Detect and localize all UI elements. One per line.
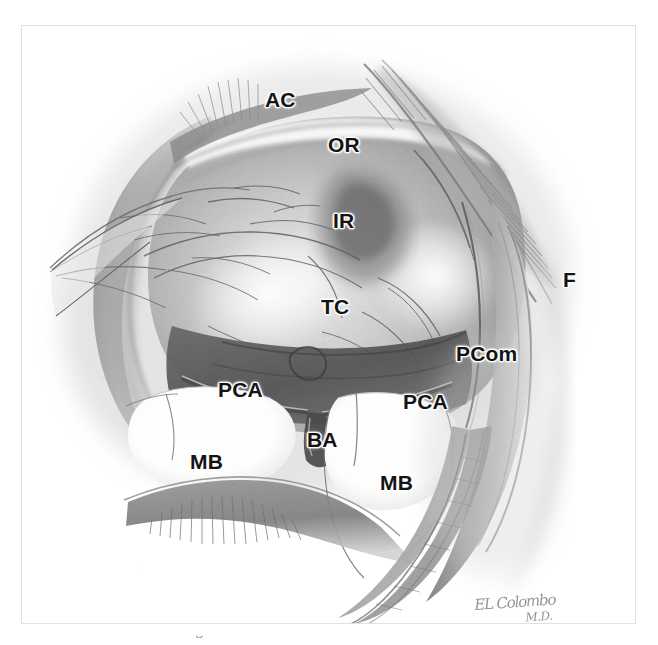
artist-signature: EL Colombo M.D. <box>474 592 557 623</box>
label-f: F <box>563 269 576 290</box>
label-tc: TC <box>321 296 349 317</box>
label-mb-left: MB <box>190 451 223 472</box>
page-canvas: ACORIRFTCPComPCAPCABAMBMB EL Colombo M.D… <box>0 0 658 645</box>
label-pca-right: PCA <box>403 391 448 412</box>
clipped-caption-strip: of the figure of the internal cerebral s… <box>0 636 658 645</box>
drawing-vector <box>22 26 635 623</box>
plate-inner: ACORIRFTCPComPCAPCABAMBMB EL Colombo M.D… <box>22 26 635 623</box>
label-ir: IR <box>333 210 354 231</box>
label-mb-right: MB <box>380 472 413 493</box>
label-or: OR <box>328 134 360 155</box>
anatomical-drawing <box>22 26 635 623</box>
label-pcom: PCom <box>456 343 517 364</box>
label-ac: AC <box>265 89 296 110</box>
figure-caption: of the figure of the internal cerebral s… <box>148 636 424 639</box>
lower-right-shadow <box>422 336 562 576</box>
illustration-plate: ACORIRFTCPComPCAPCABAMBMB EL Colombo M.D… <box>22 26 635 623</box>
label-ba: BA <box>307 429 338 450</box>
label-pca-left: PCA <box>218 379 263 400</box>
signature-credential: M.D. <box>525 609 557 623</box>
